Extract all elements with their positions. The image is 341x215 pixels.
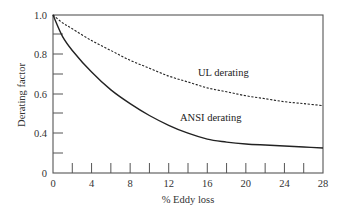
y-tick-label: 0.4 [34,128,48,139]
ul-derating-curve [53,15,323,106]
x-tick-label: 12 [163,178,174,189]
derating-chart: 1.00.80.60.40 0481216202428 UL derating … [0,0,341,215]
x-tick-label: 0 [50,178,55,189]
plot-frame [53,15,323,173]
x-tick-label: 28 [318,178,329,189]
x-tick-label: 20 [241,178,252,189]
curves [53,15,323,148]
x-tick-label: 16 [202,178,213,189]
x-axis-title: % Eddy loss [162,194,215,205]
y-axis-title: Derating factor [16,63,27,127]
x-tick-label: 24 [279,178,290,189]
y-tick-label: 0.6 [34,89,47,100]
y-tick-label: 0 [42,168,47,179]
y-axis: 1.00.80.60.40 [34,10,63,179]
ansi-derating-curve [53,15,323,148]
x-tick-label: 8 [128,178,133,189]
x-axis: 0481216202428 [50,163,328,189]
y-tick-label: 0.8 [34,49,47,60]
ul-derating-label: UL derating [198,67,249,78]
ansi-derating-label: ANSI derating [180,112,242,123]
x-tick-label: 4 [89,178,95,189]
plot-border [53,15,323,173]
y-tick-label: 1.0 [34,10,47,21]
